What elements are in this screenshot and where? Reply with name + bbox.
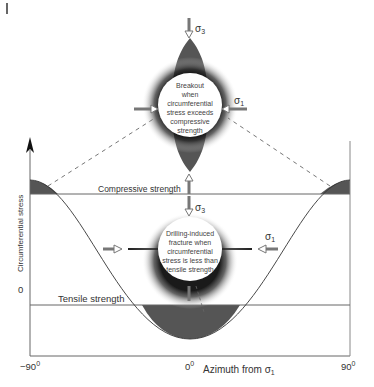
breakout-sigma3-label: σ3 [195, 23, 205, 35]
svg-text:strength: strength [177, 127, 202, 135]
fracture-text: Drilling-induced fracture when circumfer… [162, 230, 218, 274]
x-tick-90: 900 [341, 360, 356, 372]
tensile-strength-label: Tensile strength [58, 293, 125, 304]
fracture-sigma3-label: σ3 [195, 202, 205, 214]
x-axis-label: Azimuth from σ1 [203, 364, 275, 376]
y-zero-label: 0 [18, 284, 23, 295]
compressive-strength-label: Compressive strength [98, 184, 181, 194]
stress-diagram: σ3 σ1 Breakout when circumferential stre… [0, 0, 374, 387]
svg-text:when: when [181, 91, 199, 98]
tensile-failure-region [142, 305, 240, 339]
svg-text:compressive: compressive [170, 118, 209, 126]
svg-text:Breakout: Breakout [176, 82, 204, 89]
fracture-sigma1-label: σ1 [265, 231, 275, 243]
breakout-region-right [320, 180, 350, 194]
svg-text:circumferential: circumferential [167, 248, 213, 255]
svg-text:circumferential: circumferential [167, 100, 213, 107]
svg-text:stress exceeds: stress exceeds [167, 109, 214, 116]
svg-text:fracture when: fracture when [169, 239, 212, 246]
svg-text:Drilling-induced: Drilling-induced [166, 230, 214, 238]
connector-left [48, 118, 155, 186]
x-tick-neg90: −900 [20, 360, 40, 372]
y-axis-label: Circumferential stress [16, 195, 25, 272]
connector-right [228, 118, 330, 186]
breakout-sigma1-label: σ1 [234, 95, 244, 107]
x-tick-0: 00 [185, 360, 194, 372]
svg-text:stress is less than: stress is less than [162, 257, 218, 264]
svg-text:tensile strength: tensile strength [166, 266, 214, 274]
